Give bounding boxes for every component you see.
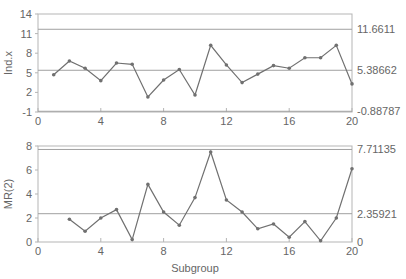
- y-axis-title: MR(2): [2, 179, 14, 210]
- data-point: [256, 227, 260, 231]
- x-tick-label: 8: [161, 115, 167, 127]
- data-point: [68, 59, 72, 63]
- data-point: [162, 78, 166, 82]
- y-tick-label: 0: [26, 236, 32, 248]
- center-label: 2.35921: [357, 208, 397, 220]
- data-point: [68, 217, 72, 221]
- ucl-label: 11.6611: [357, 23, 395, 35]
- data-point: [130, 63, 134, 67]
- data-point: [225, 63, 229, 67]
- x-axis-title: Subgroup: [171, 262, 219, 274]
- x-tick-label: 16: [283, 115, 295, 127]
- data-point: [272, 64, 276, 68]
- data-point: [209, 44, 213, 48]
- x-tick-label: 4: [98, 115, 104, 127]
- series-line: [54, 45, 352, 97]
- control-chart: -1258111404812162011.66115.38662-0.88787…: [0, 0, 406, 279]
- data-point: [335, 44, 339, 48]
- data-point: [319, 239, 323, 243]
- data-point: [350, 167, 354, 171]
- data-point: [240, 81, 244, 85]
- data-point: [115, 208, 119, 212]
- data-point: [115, 61, 119, 65]
- lcl-label: 0: [357, 236, 363, 248]
- data-point: [130, 238, 134, 242]
- x-tick-label: 8: [161, 245, 167, 257]
- y-tick-label: 2: [26, 86, 32, 98]
- data-point: [146, 183, 150, 187]
- data-point: [335, 216, 339, 220]
- plot-frame: [38, 146, 352, 242]
- data-point: [178, 223, 182, 227]
- data-point: [287, 66, 291, 70]
- data-point: [193, 196, 197, 200]
- y-tick-label: 6: [26, 164, 32, 176]
- data-point: [162, 210, 166, 214]
- data-point: [52, 73, 56, 77]
- x-tick-label: 4: [98, 245, 104, 257]
- center-label: 5.38662: [357, 64, 397, 76]
- lcl-label: -0.88787: [357, 105, 400, 117]
- data-point: [99, 216, 103, 220]
- data-point: [225, 198, 229, 202]
- y-axis-title: Ind.x: [2, 51, 14, 75]
- data-point: [319, 56, 323, 60]
- x-tick-label: 12: [220, 115, 232, 127]
- data-point: [303, 220, 307, 224]
- data-point: [83, 66, 87, 70]
- data-point: [209, 150, 213, 154]
- x-tick-label: 12: [220, 245, 232, 257]
- data-point: [178, 68, 182, 72]
- y-tick-label: 2: [26, 212, 32, 224]
- series-line: [69, 152, 352, 241]
- data-point: [350, 82, 354, 86]
- data-point: [287, 235, 291, 239]
- moving-range-chart: 024680481216207.711352.359210MR(2)Subgro…: [2, 140, 397, 274]
- data-point: [272, 222, 276, 226]
- y-tick-label: 5: [26, 67, 32, 79]
- y-tick-label: 14: [20, 8, 32, 20]
- y-tick-label: 4: [26, 188, 32, 200]
- x-tick-label: 16: [283, 245, 295, 257]
- chart-canvas: -1258111404812162011.66115.38662-0.88787…: [0, 0, 406, 279]
- y-tick-label: 8: [26, 140, 32, 152]
- x-tick-label: 0: [35, 245, 41, 257]
- individuals-chart: -1258111404812162011.66115.38662-0.88787…: [2, 8, 400, 127]
- y-tick-label: 8: [26, 47, 32, 59]
- y-tick-label: 11: [21, 28, 32, 40]
- data-point: [256, 72, 260, 76]
- data-point: [99, 79, 103, 83]
- ucl-label: 7.71135: [357, 143, 396, 155]
- data-point: [303, 56, 307, 60]
- y-tick-label: -1: [22, 106, 32, 118]
- data-point: [193, 93, 197, 97]
- data-point: [146, 95, 150, 99]
- plot-frame: [38, 14, 352, 112]
- x-tick-label: 0: [35, 115, 41, 127]
- data-point: [83, 229, 87, 233]
- data-point: [240, 210, 244, 214]
